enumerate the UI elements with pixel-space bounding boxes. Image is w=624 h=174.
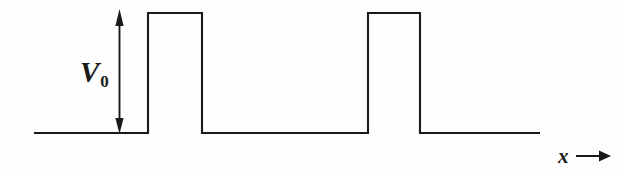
potential-subscript: 0 xyxy=(100,72,109,91)
measure-arrow-head-up-icon xyxy=(115,9,123,26)
x-axis-label: x xyxy=(558,146,569,167)
potential-symbol: V xyxy=(80,56,99,88)
x-axis-direction-arrow xyxy=(576,151,611,162)
x-axis-arrow-head-icon xyxy=(599,151,611,162)
potential-diagram-figure: V0 x xyxy=(0,0,624,174)
x-axis-symbol: x xyxy=(558,144,569,168)
height-measure-arrow xyxy=(115,9,123,134)
potential-curve xyxy=(34,13,540,133)
potential-height-label: V0 xyxy=(80,58,109,90)
measure-arrow-head-down-icon xyxy=(115,118,123,134)
